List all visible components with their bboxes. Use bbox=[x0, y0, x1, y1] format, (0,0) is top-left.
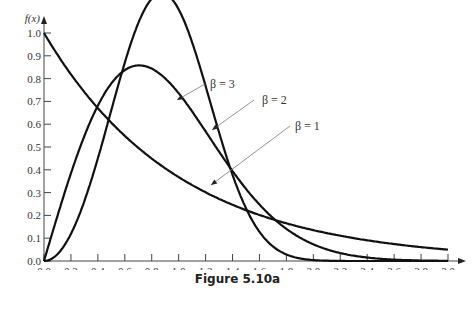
y-tick-label: 1.0 bbox=[27, 27, 41, 39]
x-tick-label: 0.0 bbox=[37, 265, 51, 270]
y-tick-label: 0.7 bbox=[27, 95, 41, 107]
x-tick-label: 2.0 bbox=[306, 265, 320, 270]
x-axis-arrow-icon bbox=[458, 258, 466, 264]
annotation-arrow-icon bbox=[211, 179, 217, 185]
y-tick-label: 0.3 bbox=[27, 187, 41, 199]
x-tick-label: 3.0 bbox=[441, 265, 455, 270]
x-tick-label: 1.2 bbox=[199, 265, 213, 270]
x-axis-title: x bbox=[464, 265, 470, 270]
annotation-label: β = 2 bbox=[262, 93, 287, 107]
x-tick-label: 0.4 bbox=[91, 265, 105, 270]
y-tick-label: 0.4 bbox=[27, 164, 41, 176]
annotation-label: β = 3 bbox=[210, 77, 235, 91]
figure-caption: Figure 5.10a bbox=[0, 272, 475, 286]
x-tick-label: 1.8 bbox=[280, 265, 294, 270]
curve-beta-1 bbox=[44, 33, 448, 250]
x-tick-label: 1.6 bbox=[253, 265, 267, 270]
x-tick-label: 2.6 bbox=[387, 265, 401, 270]
y-axis-title: f(x) bbox=[25, 12, 41, 25]
annotation-label: β = 1 bbox=[295, 119, 320, 133]
x-tick-label: 2.2 bbox=[333, 265, 347, 270]
annotation-leader bbox=[212, 100, 254, 130]
x-tick-label: 0.8 bbox=[145, 265, 159, 270]
curve-beta-3 bbox=[44, 0, 448, 261]
x-tick-label: 0.2 bbox=[64, 265, 78, 270]
y-axis-arrow-icon bbox=[41, 16, 47, 24]
y-tick-label: 0.8 bbox=[27, 73, 41, 85]
x-tick-label: 1.0 bbox=[172, 265, 186, 270]
x-tick-label: 0.6 bbox=[118, 265, 132, 270]
y-tick-label: 0.9 bbox=[27, 50, 41, 62]
y-tick-label: 0.6 bbox=[27, 118, 41, 130]
y-tick-label: 0.1 bbox=[27, 232, 41, 244]
y-tick-label: 0.2 bbox=[27, 209, 41, 221]
x-tick-label: 1.4 bbox=[226, 265, 240, 270]
x-tick-label: 2.4 bbox=[360, 265, 374, 270]
x-tick-label: 2.8 bbox=[414, 265, 428, 270]
y-tick-label: 0.5 bbox=[27, 141, 41, 153]
curve-beta-2 bbox=[44, 65, 448, 261]
chart: 0.00.10.20.30.40.50.60.70.80.91.00.00.20… bbox=[0, 0, 475, 270]
